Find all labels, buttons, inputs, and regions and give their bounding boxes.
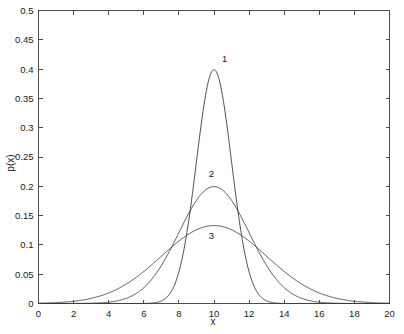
y-tick-label: 0: [28, 298, 33, 309]
x-tick-label: 4: [106, 308, 111, 319]
x-tick-label: 18: [349, 308, 360, 319]
curve-label-1: 1: [222, 53, 227, 64]
curve-label-3: 3: [209, 230, 214, 241]
y-tick-label: 0.1: [20, 239, 33, 250]
data-curves: [39, 70, 390, 304]
y-tick-label: 0.35: [15, 93, 34, 104]
y-axis-title: p(x): [5, 154, 16, 171]
x-axis-title: x: [211, 316, 216, 327]
y-tick-label: 0.15: [15, 210, 34, 221]
plot-canvas: 00.050.10.150.20.250.30.350.40.450.5 024…: [0, 0, 404, 334]
x-tick-label: 20: [384, 308, 395, 319]
y-tick-label: 0.4: [20, 64, 33, 75]
curve-label-2: 2: [209, 168, 214, 179]
axes-box: [39, 11, 390, 304]
y-tick-label: 0.45: [15, 34, 34, 45]
x-tick-label: 0: [36, 308, 41, 319]
curve-annotations: 123: [209, 53, 227, 241]
curve-sigma-2: [39, 187, 390, 304]
x-tick-label: 14: [279, 308, 290, 319]
y-tick-label: 0.3: [20, 122, 33, 133]
x-tick-label: 6: [141, 308, 146, 319]
gaussian-pdf-figure: 00.050.10.150.20.250.30.350.40.450.5 024…: [0, 0, 404, 334]
y-tick-label: 0.2: [20, 181, 33, 192]
y-tick-label: 0.05: [15, 269, 34, 280]
y-tick-label: 0.25: [15, 151, 34, 162]
x-tick-label: 12: [244, 308, 255, 319]
y-tick-labels: 00.050.10.150.20.250.30.350.40.450.5: [15, 5, 34, 309]
tick-marks: [39, 11, 390, 304]
axis-frame: [39, 11, 390, 304]
x-tick-label: 16: [314, 308, 325, 319]
y-tick-label: 0.5: [20, 5, 33, 16]
x-tick-label: 2: [71, 308, 76, 319]
x-tick-label: 8: [176, 308, 181, 319]
